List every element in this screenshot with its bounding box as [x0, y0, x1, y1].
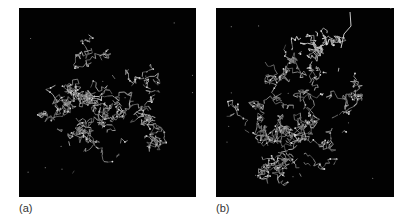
protein-wireframe-a — [19, 8, 196, 197]
protein-structure-panel-a — [19, 8, 196, 197]
protein-wireframe-b — [216, 8, 394, 197]
panel-label-b: (b) — [216, 202, 229, 214]
panel-label-a: (a) — [19, 202, 32, 214]
protein-structure-panel-b — [216, 8, 394, 197]
